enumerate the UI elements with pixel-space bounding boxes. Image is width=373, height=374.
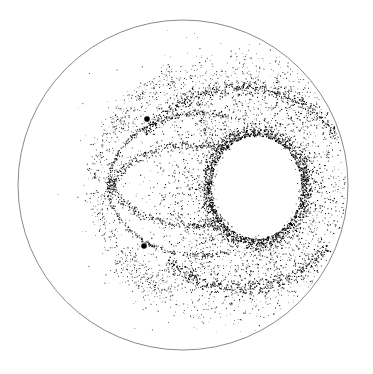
dark-markers — [141, 116, 150, 249]
central-void — [215, 140, 297, 234]
poincare-scatter-figure — [0, 0, 373, 374]
scatter-points — [58, 30, 346, 331]
scatter-plot — [0, 0, 373, 374]
boundary-circle — [18, 20, 348, 350]
lower-dark-dot — [141, 243, 147, 249]
upper-dark-dot — [144, 116, 150, 122]
